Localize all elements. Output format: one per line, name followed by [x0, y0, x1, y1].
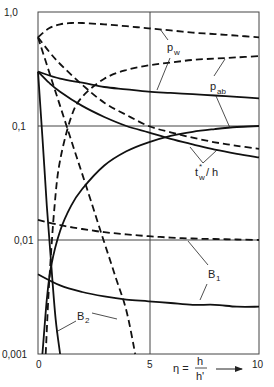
svg-text:p: p — [210, 80, 216, 92]
svg-text:t: t — [195, 166, 198, 178]
svg-text:ab: ab — [217, 87, 226, 96]
svg-text:w: w — [198, 173, 205, 182]
annotation-b1: B 1 — [188, 241, 221, 300]
svg-text:*: * — [199, 162, 202, 171]
x-label-denominator: h' — [196, 370, 204, 382]
svg-text:2: 2 — [85, 316, 90, 325]
annotation-pab: p ab — [210, 59, 230, 128]
svg-text:w: w — [173, 48, 180, 57]
plot-frame — [38, 12, 259, 354]
curve-b2-solid — [38, 72, 60, 354]
svg-text:B: B — [77, 310, 84, 322]
y-tick-0.001: 0,001 — [2, 349, 27, 360]
y-tick-0.01: 0,01 — [14, 235, 34, 246]
x-tick-0: 0 — [36, 359, 42, 370]
x-label-eta: η = — [173, 362, 189, 374]
chart: 1,0 0,1 0,01 0,001 0 5 10 η = h h' p w p… — [0, 0, 274, 387]
annotation-b2: B 2 — [56, 310, 117, 332]
annotation-tw-over-h: t * w / h — [190, 147, 218, 182]
x-label-numerator: h — [197, 355, 203, 367]
x-tick-5: 5 — [147, 359, 153, 370]
annotation-pw: p w — [157, 29, 180, 90]
svg-text:p: p — [167, 41, 173, 53]
x-tick-10: 10 — [252, 359, 264, 370]
curve-p-w-dashed — [38, 23, 259, 37]
y-tick-0.1: 0,1 — [12, 121, 26, 132]
svg-text:B: B — [208, 268, 215, 280]
curve-b1-dashed — [38, 220, 259, 240]
x-axis-label: η = h h' — [173, 355, 243, 382]
curve-b1-solid — [38, 274, 259, 307]
svg-text:1: 1 — [216, 274, 221, 283]
y-tick-1.0: 1,0 — [4, 7, 18, 18]
arrow-right-icon — [235, 366, 243, 372]
curves — [38, 23, 259, 354]
svg-text:/ h: / h — [206, 166, 218, 178]
curve-b2-dashed — [38, 37, 135, 354]
